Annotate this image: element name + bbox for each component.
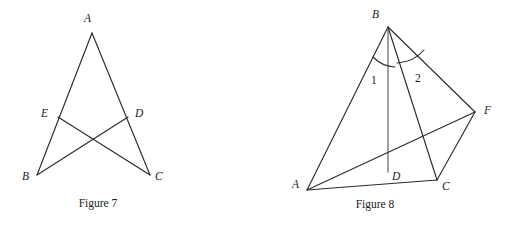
angle-label-2: 2 <box>415 72 421 84</box>
angle-label-1: 1 <box>371 74 377 86</box>
vertex-label-E-fig7: E <box>40 107 48 119</box>
segment-BA <box>307 27 388 190</box>
segment-EC <box>58 117 150 175</box>
vertex-label-D-fig7: D <box>134 107 144 119</box>
vertex-label-D-fig8: D <box>391 170 401 182</box>
figure-7-caption: Figure 7 <box>79 197 118 210</box>
vertex-label-C-fig8: C <box>442 180 450 192</box>
segment-AC <box>92 33 150 175</box>
vertex-label-C-fig7: C <box>155 170 163 182</box>
figure-7-group: A E D B C Figure 7 <box>22 12 163 210</box>
figure-8-caption: Figure 8 <box>356 198 395 211</box>
segment-BC <box>388 27 437 180</box>
segment-AF <box>307 112 475 190</box>
angle-arc-1 <box>373 57 395 67</box>
segment-DB <box>37 117 128 175</box>
vertex-label-B-fig8: B <box>372 8 379 20</box>
segment-AB <box>37 33 92 175</box>
angle-arc-2 <box>397 50 424 63</box>
vertex-label-B-fig7: B <box>22 170 29 182</box>
segment-CF <box>437 112 475 180</box>
vertex-label-A-fig7: A <box>83 12 92 24</box>
geometry-figures-canvas: A E D B C Figure 7 1 2 B A D C F Figure … <box>0 0 518 227</box>
vertex-label-A-fig8: A <box>291 178 300 190</box>
figure-8-group: 1 2 B A D C F Figure 8 <box>291 8 492 211</box>
vertex-label-F-fig8: F <box>483 104 492 116</box>
